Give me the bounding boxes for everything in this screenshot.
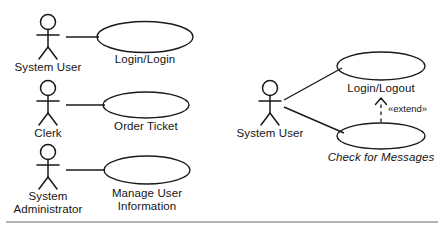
actor-label-system-user-left: System User [15,61,82,74]
actor-label-system-administrator-line1: System [29,190,68,203]
extend-relationship-arrow [376,98,387,122]
use-case-label-manage-user-information-line2: Information [118,200,177,213]
use-case-ellipse-manage-user-information [104,156,190,184]
actor-leg-right-icon [48,113,57,125]
actor-label-system-administrator-line2: Administrator [13,203,82,216]
actor-system-user-right [259,81,281,126]
actor-head-icon [263,81,278,96]
use-case-diagram: System User Login/Login Clerk Order Tick… [0,0,444,234]
use-case-ellipse-check-for-messages [337,123,425,149]
actor-leg-right-icon [270,113,279,125]
association-line-system-user-login-logout [284,68,342,100]
use-case-label-manage-user-information-line1: Manage User [112,187,182,200]
actor-leg-right-icon [48,47,57,59]
actor-leg-left-icon [39,47,48,59]
use-case-ellipse-login-logout [337,52,425,80]
use-case-ellipse-order-ticket [103,92,189,118]
actor-leg-right-icon [48,177,57,189]
use-case-label-login-logout: Login/Logout [347,82,415,95]
actor-label-system-user-right: System User [237,127,304,140]
actor-head-icon [41,81,56,96]
extend-stereotype-label: «extend» [388,102,427,115]
actor-system-administrator [37,145,59,190]
use-case-ellipse-login-login [97,22,193,53]
actor-clerk [37,81,59,126]
actor-leg-left-icon [261,113,270,125]
actor-label-clerk: Clerk [34,127,61,140]
use-case-label-order-ticket: Order Ticket [114,120,178,133]
actor-leg-left-icon [39,177,48,189]
actor-leg-left-icon [39,113,48,125]
use-case-label-login-login: Login/Login [115,53,176,66]
actor-head-icon [41,145,56,160]
use-case-label-check-for-messages: Check for Messages [328,151,435,164]
extend-open-arrowhead-icon [376,98,387,105]
actor-head-icon [41,15,56,30]
actor-system-user-left [37,15,59,60]
